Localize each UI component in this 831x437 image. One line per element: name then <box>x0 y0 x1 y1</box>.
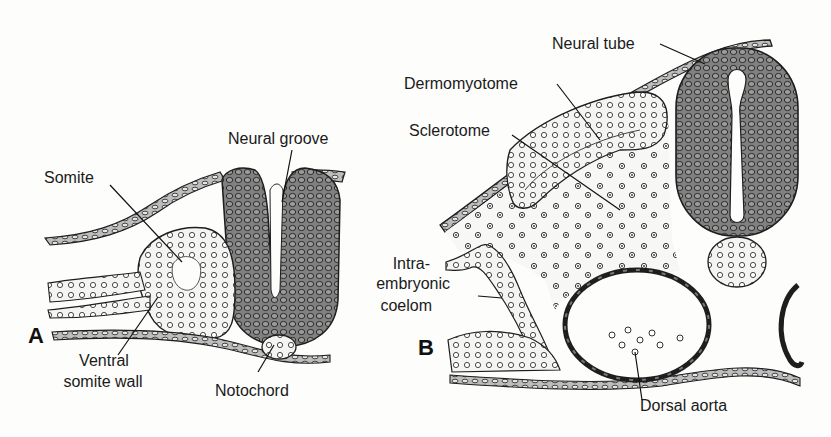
label-dorsal-aorta: Dorsal aorta <box>640 397 727 415</box>
label-coelom-line3: coelom <box>340 297 432 315</box>
label-somite: Somite <box>44 169 94 187</box>
label-coelom-line2: embryonic <box>340 275 450 293</box>
label-neural-tube: Neural tube <box>552 35 635 53</box>
label-neural-groove: Neural groove <box>228 130 329 148</box>
panel-b-artwork <box>440 40 802 400</box>
label-dermomyotome: Dermomyotome <box>404 75 518 93</box>
figure: Neural groove Somite Ventral somite wall… <box>0 0 831 437</box>
label-sclerotome: Sclerotome <box>409 122 490 140</box>
label-coelom-line1: Intra- <box>340 255 430 273</box>
panel-label-a: A <box>28 323 44 349</box>
diagram-artwork <box>0 0 831 437</box>
label-ventral-somite-wall-line1: Ventral <box>64 352 144 370</box>
panel-label-b: B <box>418 335 434 361</box>
label-notochord: Notochord <box>215 382 289 400</box>
label-ventral-somite-wall-line2: somite wall <box>50 373 156 391</box>
